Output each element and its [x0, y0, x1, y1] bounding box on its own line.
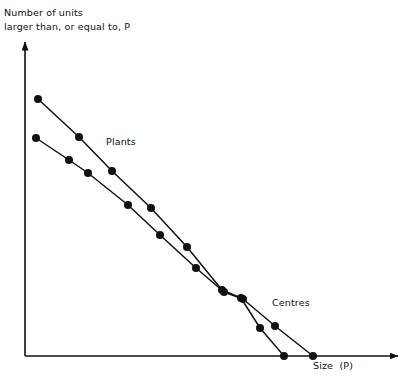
data-point [124, 201, 132, 209]
series-plants-line [38, 99, 284, 356]
data-point [192, 264, 200, 272]
data-point [75, 133, 83, 141]
data-point [108, 167, 116, 175]
data-point [156, 231, 164, 239]
data-point [147, 204, 155, 212]
series-plants-markers [34, 95, 288, 360]
data-point [65, 156, 73, 164]
series-centres-line [36, 138, 313, 356]
chart-figure: Number of units larger than, or equal to… [0, 0, 417, 381]
data-point [271, 322, 279, 330]
data-point [220, 288, 228, 296]
data-point [309, 352, 317, 360]
data-point [32, 134, 40, 142]
data-point [84, 169, 92, 177]
data-point [183, 243, 191, 251]
series-centres-markers [32, 134, 317, 360]
data-point [239, 295, 247, 303]
series-centres [32, 134, 317, 360]
data-point [256, 324, 264, 332]
plot-area [0, 0, 417, 381]
data-point [280, 352, 288, 360]
series-plants [34, 95, 288, 360]
data-point [34, 95, 42, 103]
